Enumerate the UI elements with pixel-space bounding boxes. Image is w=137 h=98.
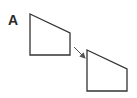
translation-arrow [74, 47, 85, 58]
translated-quadrilateral [87, 50, 127, 91]
original-quadrilateral [30, 14, 70, 55]
diagram-canvas [0, 0, 137, 98]
